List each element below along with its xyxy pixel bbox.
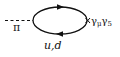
cross-vertex-icon — [86, 18, 91, 23]
arrow-top-right-icon — [57, 4, 64, 9]
quark-label: u,d — [44, 39, 62, 52]
arrow-bottom-left-icon — [56, 31, 63, 36]
pion-label: π — [13, 21, 20, 34]
five-subscript: 5 — [108, 20, 112, 28]
quark-loop — [33, 7, 87, 34]
feynman-diagram: π u,d γμγ5 — [0, 0, 120, 57]
vertex-label: γμγ5 — [91, 15, 112, 28]
